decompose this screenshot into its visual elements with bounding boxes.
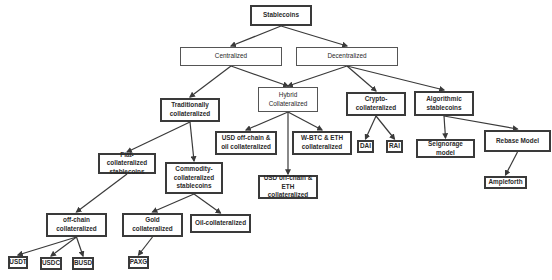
node-label: W-BTC & ETH collateralized [301,134,343,151]
node-label: Fiat-collateralized stablecoins [102,151,152,177]
node-usdc: USDC [40,257,62,270]
edge-traditional-to-commodity [190,122,194,161]
node-label: Traditionally collateralized [170,101,211,118]
node-label: Commodity- collateralized stablecoins [174,165,215,191]
node-label: Oil-collateralized [195,219,246,228]
node-paxg: PAXG [128,256,149,269]
edge-centralized-to-traditional [190,66,231,97]
node-label: Crypto- collateralized [356,95,397,112]
node-traditionally-collateralized: Traditionally collateralized [160,98,220,122]
node-label: Centralized [215,52,247,61]
node-label: Rebase Model [496,137,539,146]
edge-gold-to-paxg [139,237,153,255]
edge-centralized-to-hybrid [231,66,288,86]
node-label: USDC [42,259,60,268]
node-busd: BUSD [72,257,94,270]
node-centralized: Centralized [180,47,282,66]
edge-offchain-to-usdc [51,237,77,256]
node-label: Ampleforth [488,178,522,187]
node-label: BUSD [74,259,92,268]
edge-decentralized-to-hybrid [288,66,347,86]
edge-algorithmic-to-seignorage [444,116,446,138]
edge-root-to-centralized [231,26,281,46]
node-usd-offchain-oil: USD off-chain & oil collateralized [215,131,277,155]
node-gold-collateralized: Gold collateralized [122,213,183,237]
stablecoin-taxonomy-diagram: Stablecoins Centralized Decentralized Tr… [0,0,552,280]
edge-commodity-to-oil [194,194,221,213]
node-crypto-collateralized: Crypto- collateralized [346,92,406,116]
edge-traditional-to-fiat [127,122,190,152]
edge-fiat-to-offchain [77,174,128,212]
node-label: USDT [9,258,26,267]
node-label: PAXG [130,258,148,267]
node-usdt: USDT [8,256,28,269]
node-hybrid-collateralized: Hybrid Collateralized [258,87,318,112]
edge-algorithmic-to-rebase [444,116,518,129]
edge-hybrid-to-wbtc_eth [288,112,322,130]
edge-offchain-to-busd [77,237,84,256]
node-dai: DAI [357,140,374,153]
node-label: USD off-chain & oil collateralized [221,134,271,151]
node-commodity-collateralized: Commodity- collateralized stablecoins [165,162,223,194]
edge-offchain-to-usdt [18,237,77,255]
edge-root-to-decentralized [281,26,347,46]
edge-hybrid-to-usd_oil [246,112,288,130]
node-decentralized: Decentralized [296,47,398,66]
edge-commodity-to-gold [153,194,195,212]
node-label: Gold collateralized [132,216,173,233]
node-label: RAI [389,142,400,151]
node-ampleforth: Ampleforth [484,176,527,189]
node-label: Stablecoins [263,11,299,20]
edge-crypto-to-dai [366,116,377,139]
node-label: DAI [360,142,371,151]
edge-rebase-to-ampleforth [506,152,518,175]
node-offchain-collateralized: off-chain collateralized [46,213,107,237]
node-oil-collateralized: Oil-collateralized [190,214,251,233]
edge-crypto-to-rai [376,116,395,139]
node-algorithmic-stablecoins: Algorithmic stablecoins [414,91,474,116]
node-fiat-collateralized: Fiat-collateralized stablecoins [98,153,156,174]
node-label: Algorithmic stablecoins [426,95,462,112]
node-rebase-model: Rebase Model [484,130,551,152]
node-rai: RAI [386,140,403,153]
node-stablecoins: Stablecoins [250,5,312,26]
node-label: USD off-chain & ETH collateralized [262,174,314,200]
node-label: Decentralized [327,52,366,61]
node-label: off-chain collateralized [56,216,97,233]
node-label: Seignorage model [420,140,471,157]
node-wbtc-eth: W-BTC & ETH collateralized [292,131,352,155]
node-seignorage-model: Seignorage model [416,139,475,158]
node-usd-offchain-eth: USD off-chain & ETH collateralized [258,175,318,199]
node-label: Hybrid Collateralized [269,91,308,108]
